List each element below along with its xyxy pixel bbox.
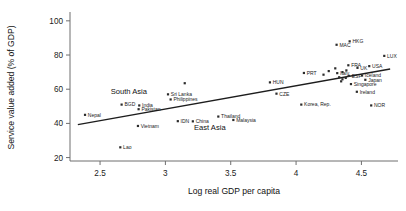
data-point <box>345 69 347 71</box>
y-axis-title: Service value added (% of GDP) <box>6 25 16 149</box>
data-point-label: Malaysia <box>236 117 256 123</box>
data-point <box>335 44 337 46</box>
y-tick-label: 80 <box>54 51 64 60</box>
data-point <box>350 83 352 85</box>
data-point <box>336 72 338 74</box>
data-point-label: IDN <box>181 118 190 124</box>
x-axis-title: Log real GDP per capita <box>188 186 280 196</box>
scatter-chart: 204060801002.533.544.5Log real GDP per c… <box>0 0 406 211</box>
x-tick-label: 4.5 <box>356 169 368 178</box>
data-point-label: HUN <box>273 79 284 85</box>
data-point-label: Vietnam <box>141 123 159 129</box>
data-point <box>348 75 350 77</box>
data-point-label: Lao <box>123 144 132 150</box>
data-point-label: BGD <box>124 101 135 107</box>
data-point <box>340 80 342 82</box>
data-point <box>121 103 123 105</box>
plot-area: 204060801002.533.544.5Log real GDP per c… <box>0 0 406 211</box>
region-annotation: East Asia <box>194 123 226 132</box>
x-tick-label: 3 <box>163 169 168 178</box>
data-point <box>347 64 349 66</box>
data-point-label: LUX <box>387 53 397 59</box>
data-point <box>328 70 330 72</box>
y-tick-label: 60 <box>54 85 64 94</box>
data-point <box>334 67 336 69</box>
data-point-label: Ireland <box>360 89 376 95</box>
data-point-label: Philippines <box>173 96 198 102</box>
y-tick-label: 20 <box>54 154 64 163</box>
data-point <box>232 119 234 121</box>
data-point <box>137 125 139 127</box>
data-point-label: Nepal <box>88 112 101 118</box>
data-point-label: Pakistan <box>141 106 160 112</box>
data-point <box>322 74 324 76</box>
data-point <box>84 114 86 116</box>
data-point-label: MAC <box>339 42 351 48</box>
data-point-label: UK <box>360 65 368 71</box>
data-point-label: HKG <box>352 38 363 44</box>
data-point-label: CZE <box>279 91 290 97</box>
x-tick-label: 4 <box>294 169 299 178</box>
data-point-label: PRT <box>307 70 317 76</box>
data-point-label: NOR <box>374 102 386 108</box>
data-point <box>170 98 172 100</box>
data-point <box>119 146 121 148</box>
data-point <box>303 72 305 74</box>
data-point <box>184 82 186 84</box>
x-tick-label: 3.5 <box>225 169 237 178</box>
region-annotation: South Asia <box>111 87 148 96</box>
data-point-label: Korea, Rep. <box>304 101 331 107</box>
data-point <box>138 104 140 106</box>
data-point <box>338 76 340 78</box>
data-point <box>300 103 302 105</box>
data-point <box>275 93 277 95</box>
data-point-label: USA <box>372 63 383 69</box>
data-point <box>368 65 370 67</box>
data-point <box>370 104 372 106</box>
data-point <box>356 67 358 69</box>
data-point <box>269 81 271 83</box>
data-point <box>177 120 179 122</box>
data-point <box>138 108 140 110</box>
x-tick-label: 2.5 <box>94 169 106 178</box>
data-point-label: ESP <box>352 73 363 79</box>
data-point <box>349 40 351 42</box>
data-point <box>341 71 343 73</box>
data-point <box>345 77 347 79</box>
data-point-label: Singapore <box>354 81 377 87</box>
data-point <box>167 93 169 95</box>
data-point <box>383 55 385 57</box>
data-point <box>361 74 363 76</box>
data-point <box>341 78 343 80</box>
y-tick-label: 40 <box>54 119 64 128</box>
y-tick-label: 100 <box>49 17 63 26</box>
data-point <box>217 115 219 117</box>
data-point <box>356 91 358 93</box>
